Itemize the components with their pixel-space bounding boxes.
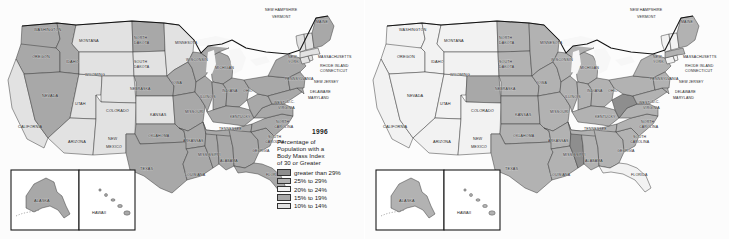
state-label-michigan: MICHIGAN [580, 66, 599, 70]
state-label-idaho: IDAHO [66, 60, 79, 64]
state-label-kansas: KANSAS [150, 113, 167, 117]
state-label-dakota: DAKOTA [134, 41, 150, 45]
state-label-alabama: ALABAMA [585, 159, 603, 163]
state-label-washington: WASHINGTON [399, 28, 427, 32]
state-label-new: NEW [288, 55, 297, 59]
state-label-mexico: MEXICO [106, 145, 122, 149]
state-label-mexico: MEXICO [471, 145, 487, 149]
state-kansas[interactable] [501, 96, 540, 124]
inset-label-alaska: ALASKA [34, 199, 50, 203]
state-label-rhode-island: RHODE ISLAND [320, 64, 349, 68]
state-label-new: NEW [108, 137, 118, 141]
state-label-rhode-island: RHODE ISLAND [685, 64, 714, 68]
state-label-louisiana: LOUISIANA [185, 173, 206, 177]
state-label-ohio: OHIO [608, 89, 618, 93]
state-label-arkansas: ARKANSAS [183, 139, 204, 143]
inset-label-hawaii: HAWAII [457, 211, 471, 215]
state-label-nebraska: NEBRASKA [130, 87, 151, 91]
state-label-new: NEW [473, 137, 483, 141]
state-label-missouri: MISSOURI [185, 110, 204, 114]
legend-desc-line-3: Body Mass Index [277, 152, 363, 159]
state-label-florida: FLORIDA [631, 173, 648, 177]
state-label-dakota: DAKOTA [134, 65, 150, 69]
legend-row-p15_19[interactable]: 15% to 19% [277, 194, 363, 201]
state-label-missouri: MISSOURI [550, 110, 569, 114]
legend-label-p10_14: 10% to 14% [294, 202, 327, 209]
state-label-kentucky: KENTUCKY [230, 115, 251, 119]
legend-description: Percentage of Population with a Body Mas… [277, 138, 363, 166]
state-label-d-c-: D.C. [652, 100, 660, 104]
state-label-arkansas: ARKANSAS [548, 139, 569, 143]
state-label-montana: MONTANA [79, 39, 99, 43]
inset-label-hawaii: HAWAII [92, 211, 106, 215]
legend-row-greater_than_29[interactable]: greater than 29% [277, 169, 363, 176]
state-label-connecticut: CONNECTICUT [320, 69, 348, 73]
state-label-georgia: GEORGIA [252, 149, 270, 153]
state-label-connecticut: CONNECTICUT [685, 69, 713, 73]
state-label-kentucky: KENTUCKY [595, 115, 616, 119]
state-label-mississippi: MISSISSIPPI [198, 153, 221, 157]
state-label-nevada: NEVADA [407, 94, 424, 98]
state-label-oklahoma: OKLAHOMA [513, 134, 535, 138]
legend-desc-line-4: of 30 or Greater [277, 159, 363, 166]
hawaii-inset-box [79, 170, 135, 230]
state-label-dakota: DAKOTA [499, 41, 515, 45]
state-label-tennessee: TENNESSEE [219, 127, 242, 131]
map-panel-1996: WASHINGTONMONTANANORTHDAKOTAMINNESOTAORE… [0, 0, 364, 239]
legend-desc-line-2: Population with a [277, 145, 363, 152]
state-label-wyoming: WYOMING [85, 73, 105, 77]
figure-root: WASHINGTONMONTANANORTHDAKOTAMINNESOTAORE… [0, 0, 729, 239]
state-label-vermont: VERMONT [272, 15, 291, 19]
state-label-maryland: MARYLAND [673, 96, 694, 100]
state-montana[interactable] [72, 21, 133, 52]
state-oregon[interactable] [16, 44, 60, 74]
state-label-d-c-: D.C. [287, 100, 295, 104]
state-label-pennsylvania: PENNSYLVANIA [650, 77, 679, 81]
legend-swatch-p20_24 [277, 186, 291, 192]
state-label-iowa: IOWA [172, 81, 182, 85]
state-label-south: SOUTH [633, 135, 646, 139]
state-label-arizona: ARIZONA [68, 140, 86, 144]
state-oregon[interactable] [381, 44, 425, 74]
state-label-massachusetts: MASSACHUSETTS [683, 55, 717, 59]
state-label-north: NORTH [134, 36, 148, 40]
state-label-utah: UTAH [440, 102, 451, 106]
state-label-wyoming: WYOMING [450, 73, 470, 77]
state-label-york: YORK [288, 60, 299, 64]
state-label-south: SOUTH [134, 60, 147, 64]
state-kansas[interactable] [136, 96, 175, 124]
state-label-louisiana: LOUISIANA [550, 173, 571, 177]
inset-boxes-1996 [11, 170, 135, 230]
legend-1996: 1996 Percentage of Population with a Bod… [277, 128, 363, 210]
state-label-new-hampshire: NEW HAMPSHIRE [630, 8, 663, 12]
legend-row-p25_29[interactable]: 25% to 29% [277, 177, 363, 184]
state-label-nevada: NEVADA [42, 94, 59, 98]
legend-row-p10_14[interactable]: 10% to 14% [277, 202, 363, 209]
legend-label-p15_19: 15% to 19% [294, 194, 327, 201]
state-label-maine: MAINE [316, 20, 328, 24]
state-label-arizona: ARIZONA [433, 140, 451, 144]
map-panel-2006: WASHINGTONMONTANANORTHDAKOTAMINNESOTAORE… [365, 0, 729, 239]
state-label-delaware: DELAWARE [310, 90, 331, 94]
state-label-colorado: COLORADO [106, 109, 129, 113]
state-label-west: WEST [274, 101, 286, 105]
state-montana[interactable] [437, 21, 498, 52]
state-nebraska[interactable] [499, 76, 539, 96]
state-label-virginia: VIRGINIA [278, 106, 295, 110]
state-nebraska[interactable] [134, 76, 174, 96]
legend-row-p20_24[interactable]: 20% to 24% [277, 185, 363, 192]
legend-label-greater_than_29: greater than 29% [294, 169, 341, 176]
inset-label-alaska: ALASKA [399, 199, 415, 203]
state-label-carolina: CAROLINA [639, 125, 659, 129]
state-label-new: NEW [653, 55, 662, 59]
state-label-california: CALIFORNIA [18, 125, 43, 129]
state-label-indiana: INDIANA [222, 89, 238, 93]
state-label-california: CALIFORNIA [383, 125, 408, 129]
hawaii-inset-box [444, 170, 500, 230]
state-label-alabama: ALABAMA [220, 159, 238, 163]
state-label-oklahoma: OKLAHOMA [148, 134, 170, 138]
legend-label-p20_24: 20% to 24% [294, 186, 327, 193]
state-label-nebraska: NEBRASKA [495, 87, 516, 91]
us-map-2006: WASHINGTONMONTANANORTHDAKOTAMINNESOTAORE… [365, 0, 729, 239]
legend-swatch-rows: greater than 29%25% to 29%20% to 24%15% … [277, 169, 363, 210]
